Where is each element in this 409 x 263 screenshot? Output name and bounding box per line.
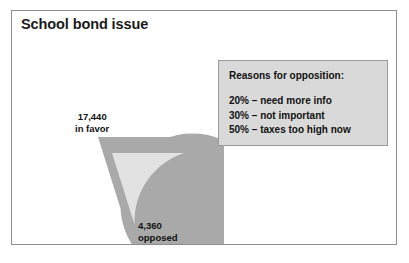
pie-label-in-favor-value: 17,440 — [78, 111, 107, 122]
page-title: School bond issue — [21, 16, 148, 32]
pie-chart-svg — [14, 32, 224, 244]
pie-label-opposed-value: 4,360 — [138, 220, 162, 231]
pie-label-in-favor-caption: in favor — [75, 123, 109, 134]
legend-item: 30% – not important — [229, 109, 351, 124]
legend-heading: Reasons for opposition: — [229, 70, 344, 81]
pie-chart: 17,440 in favor 4,360 opposed — [14, 32, 224, 244]
pie-label-opposed-caption: opposed — [138, 232, 178, 243]
pie-label-opposed: 4,360 opposed — [138, 220, 178, 244]
legend-panel: Reasons for opposition: 20% – need more … — [218, 60, 388, 146]
figure-root: School bond issue 17,440 in favor 4,360 … — [0, 0, 409, 263]
legend-item: 50% – taxes too high now — [229, 123, 351, 138]
legend-list: 20% – need more info 30% – not important… — [229, 94, 351, 138]
legend-item: 20% – need more info — [229, 94, 351, 109]
pie-label-in-favor: 17,440 in favor — [75, 111, 109, 135]
